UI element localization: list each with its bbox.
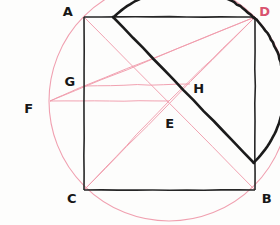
vertex-label-d: D [259,5,270,18]
geometry-canvas [0,0,280,225]
construction-line-group [50,17,255,190]
vertex-label-e: E [165,117,174,130]
geometry-figure: A D C B E F G H [0,0,280,225]
vertex-label-c: C [67,192,77,205]
vertex-label-h: H [193,82,204,95]
vertex-label-g: G [64,75,75,88]
line-G-to-H-horizontal [84,84,190,86]
vertex-label-a: A [63,5,74,18]
vertex-label-b: B [262,192,272,205]
line-E-to-C [84,101,169,190]
vertex-label-f: F [24,102,33,115]
